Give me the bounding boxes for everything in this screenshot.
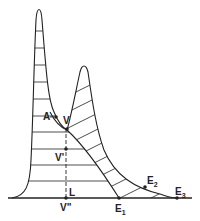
- point-V-prime: [64, 147, 68, 151]
- point-V: [65, 127, 69, 131]
- point-A: [54, 115, 58, 119]
- point-E1: [117, 196, 121, 200]
- diagram: A V V' L V" E1 E2 E3: [0, 0, 200, 221]
- label-V-prime: V': [55, 153, 64, 163]
- label-E2: E2: [147, 176, 158, 190]
- left-peak-hatching: [0, 31, 200, 181]
- label-A: A: [43, 112, 50, 122]
- peaks-plot: [0, 0, 200, 221]
- left-peak-curve: [12, 10, 119, 199]
- label-E1: E1: [115, 204, 126, 218]
- label-E3: E3: [175, 187, 186, 201]
- label-V-double-prime: V": [60, 203, 71, 213]
- point-V-double-prime: [64, 196, 68, 200]
- label-V: V: [63, 116, 70, 126]
- label-L: L: [69, 188, 75, 198]
